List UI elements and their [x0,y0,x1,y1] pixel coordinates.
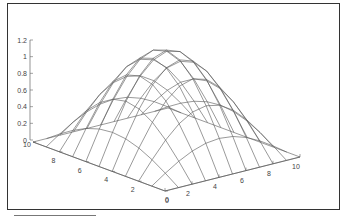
mesh-line [193,61,206,79]
x-tick-label: 2 [186,190,190,197]
mesh-line [166,124,180,140]
y-tick-label: 6 [78,167,82,174]
mesh-line [113,101,127,132]
mesh-line [140,58,154,76]
mesh-line [180,61,193,62]
mesh-line [233,171,247,174]
mesh-line [206,105,220,106]
mesh-line [126,139,139,148]
z-tick-label: 0.8 [17,70,27,77]
mesh-line [114,118,128,121]
mesh-line [141,81,154,99]
mesh-line [86,162,99,167]
mesh-line [181,82,195,101]
mesh-line [127,76,140,97]
mesh-line [154,60,168,68]
mesh-line [206,143,219,177]
mesh-line [114,97,128,99]
mesh-line [165,188,179,191]
mesh-line [127,97,141,98]
z-tick-label: 0.4 [17,103,27,110]
mesh-line [126,101,139,109]
mesh-line [140,59,154,60]
mesh-line [166,140,179,161]
mesh-line [125,148,138,176]
mesh-line [154,68,167,81]
mesh-line [152,122,165,140]
y-tick-label: 0 [165,196,169,203]
x-tick-label: 4 [213,183,217,190]
mesh-line [126,109,140,139]
mesh-line [46,147,59,152]
x-tick-label: 10 [292,163,300,170]
mesh-line [246,167,260,170]
mesh-line [114,97,127,121]
mesh-line [113,99,126,101]
mesh-line [166,86,180,101]
y-tick-label: 8 [51,157,55,164]
mesh-line [234,112,247,121]
mesh-line [140,76,154,81]
mesh-line [179,184,193,187]
mesh-line [179,79,193,86]
mesh-line [141,98,155,101]
mesh-line [194,101,207,102]
mesh-line [220,87,233,110]
mesh-line [152,140,166,160]
mesh-line [125,176,138,181]
mesh-line [260,133,273,146]
mesh-line [139,109,152,122]
mesh-line [154,102,168,107]
mesh-line [127,76,140,77]
mesh-line [99,132,113,166]
mesh-line [154,90,167,101]
mesh-line [167,51,181,61]
surface-plot: 00.20.40.60.811.202468100246810 [0,0,343,217]
mesh-line [273,146,286,160]
mesh-line [260,141,274,146]
mesh-line [207,71,220,87]
mesh-line [274,147,287,152]
z-tick-label: 0.2 [17,120,27,127]
mesh-line [194,62,208,81]
mesh-line [165,161,179,173]
mesh-line [152,160,165,173]
mesh-line [113,67,127,82]
mesh-line [139,148,152,160]
mesh-line [140,76,153,85]
mesh-line [166,68,179,86]
mesh-line [192,151,205,181]
mesh-line [246,137,259,167]
x-tick-label: 8 [267,170,271,177]
mesh-line [194,62,207,71]
mesh-line [206,138,220,143]
mesh-line [192,181,206,184]
mesh-line [206,177,220,180]
mesh-line [73,157,86,162]
mesh-line [99,167,112,172]
mesh-line [219,138,232,174]
y-tick-label: 10 [23,141,31,148]
mesh-line [141,102,154,115]
mesh-line [219,136,233,138]
mesh-line [100,83,114,95]
x-tick-label: 6 [240,177,244,184]
mesh-line [260,164,274,167]
mesh-line [99,129,112,132]
mesh-line [139,122,153,148]
mesh-line [287,152,300,157]
mesh-line [287,157,301,160]
mesh-line [112,139,126,172]
z-tick-label: 1 [23,53,27,60]
mesh-line [112,171,125,176]
mesh-line [193,106,207,112]
mesh-line [273,160,287,163]
y-tick-label: 4 [104,176,108,183]
mesh-line [86,128,99,129]
mesh-line [33,142,46,147]
mesh-line [180,61,194,79]
mesh-line [179,151,193,161]
mesh-line [86,129,100,162]
mesh-line [127,59,141,66]
mesh-line [73,128,87,156]
